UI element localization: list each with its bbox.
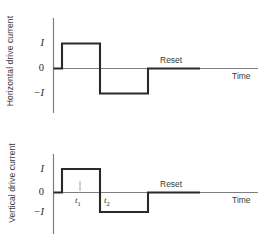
y-tick-label-negative-I-vertical: −I	[22, 206, 44, 217]
plot-area-horizontal	[0, 0, 273, 122]
time-marker-t1-subscript: 1	[78, 200, 81, 207]
y-tick-label-positive-I-vertical: I	[28, 163, 44, 174]
y-tick-label-negative-I-horizontal: −I	[22, 87, 44, 98]
x-axis-label-vertical: Time	[232, 195, 251, 205]
time-marker-t2: t2	[104, 195, 110, 207]
reset-annotation-horizontal: Reset	[160, 55, 182, 65]
panel-horizontal-drive-current: Horizontal drive current I 0 −I Reset Ti…	[0, 0, 273, 122]
panel-vertical-drive-current: Vertical drive current I 0 −I t1 t2 Rese…	[0, 122, 273, 244]
drive-current-waveform-figure: Horizontal drive current I 0 −I Reset Ti…	[0, 0, 273, 244]
x-axis-label-horizontal: Time	[232, 71, 251, 81]
y-tick-label-zero-horizontal: 0	[28, 62, 44, 73]
y-tick-label-positive-I-horizontal: I	[28, 37, 44, 48]
plot-area-vertical	[0, 122, 273, 244]
reset-annotation-vertical: Reset	[160, 179, 182, 189]
y-tick-label-zero-vertical: 0	[28, 186, 44, 197]
time-marker-t1: t1	[75, 195, 81, 207]
time-marker-t2-subscript: 2	[107, 200, 110, 207]
